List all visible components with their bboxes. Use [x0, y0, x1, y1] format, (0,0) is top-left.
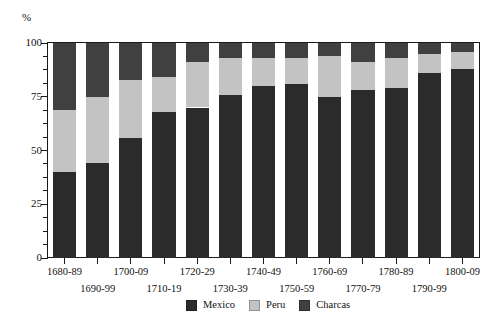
bar-segment-mexico — [53, 172, 76, 258]
bar-segment-peru — [418, 54, 441, 73]
legend-label: Mexico — [203, 299, 235, 311]
bar-segment-mexico — [385, 88, 408, 258]
x-tick-label: 1790-99 — [412, 283, 447, 294]
bar-column[interactable] — [351, 43, 374, 258]
y-tick-label: 25 — [31, 198, 42, 209]
bar-segment-charcas — [252, 43, 275, 58]
x-tick-label: 1800-09 — [445, 266, 480, 277]
x-tick-label: 1750-59 — [279, 283, 314, 294]
bar-segment-peru — [351, 62, 374, 90]
bar-segment-peru — [451, 52, 474, 69]
x-tick-label: 1680-89 — [47, 266, 82, 277]
bar-segment-charcas — [219, 43, 242, 58]
x-tick-label: 1760-69 — [312, 266, 347, 277]
bar-column[interactable] — [385, 43, 408, 258]
bar-segment-peru — [186, 62, 209, 107]
bar-segment-mexico — [119, 138, 142, 258]
bar-segment-peru — [119, 80, 142, 138]
legend-label: Peru — [266, 299, 285, 311]
legend-label: Charcas — [316, 299, 350, 311]
bar-segment-mexico — [318, 97, 341, 258]
x-tick-label: 1720-29 — [180, 266, 215, 277]
bar-segment-charcas — [119, 43, 142, 80]
bar-segment-mexico — [152, 112, 175, 258]
bar-column[interactable] — [252, 43, 275, 258]
legend-item[interactable]: Mexico — [186, 299, 235, 311]
bar-segment-peru — [318, 56, 341, 97]
bar-column[interactable] — [119, 43, 142, 258]
bar-segment-charcas — [318, 43, 341, 56]
x-tick — [230, 258, 231, 264]
bar-segment-charcas — [152, 43, 175, 77]
x-tick-label: 1780-89 — [379, 266, 414, 277]
bar-column[interactable] — [285, 43, 308, 258]
bar-segment-charcas — [451, 43, 474, 52]
bar-segment-charcas — [385, 43, 408, 58]
x-tick — [462, 258, 463, 264]
bar-segment-peru — [385, 58, 408, 88]
y-tick-label: 75 — [31, 91, 42, 102]
y-tick-label: 0 — [37, 252, 43, 263]
x-tick — [130, 258, 131, 264]
x-tick — [97, 258, 98, 264]
bar-segment-peru — [252, 58, 275, 86]
x-tick-label: 1770-79 — [345, 283, 380, 294]
bar-segment-mexico — [451, 69, 474, 258]
bar-column[interactable] — [219, 43, 242, 258]
x-tick-label: 1740-49 — [246, 266, 281, 277]
x-tick — [296, 258, 297, 264]
x-tick-label: 1710-19 — [147, 283, 182, 294]
x-tick — [197, 258, 198, 264]
bar-segment-mexico — [285, 84, 308, 258]
bar-column[interactable] — [53, 43, 76, 258]
x-tick — [263, 258, 264, 264]
plot-area — [48, 43, 479, 258]
bar-segment-charcas — [53, 43, 76, 110]
legend-item[interactable]: Charcas — [299, 299, 350, 311]
x-tick — [396, 258, 397, 264]
legend-item[interactable]: Peru — [249, 299, 285, 311]
y-tick-label: 50 — [31, 145, 42, 156]
bar-segment-peru — [86, 97, 109, 164]
x-tick-label: 1700-09 — [113, 266, 148, 277]
bar-segment-charcas — [418, 43, 441, 54]
x-tick — [329, 258, 330, 264]
chart-legend: MexicoPeruCharcas — [186, 299, 364, 311]
bar-segment-mexico — [418, 73, 441, 258]
bar-segment-mexico — [86, 163, 109, 258]
bar-segment-mexico — [252, 86, 275, 258]
bar-column[interactable] — [86, 43, 109, 258]
x-tick — [164, 258, 165, 264]
legend-swatch-charcas — [299, 300, 310, 311]
legend-swatch-peru — [249, 300, 260, 311]
bar-segment-charcas — [351, 43, 374, 62]
bar-column[interactable] — [152, 43, 175, 258]
bar-segment-mexico — [351, 90, 374, 258]
bar-segment-charcas — [285, 43, 308, 58]
bar-segment-mexico — [219, 95, 242, 258]
bar-segment-peru — [219, 58, 242, 95]
x-tick — [429, 258, 430, 264]
bar-segment-peru — [53, 110, 76, 172]
y-tick-label: 100 — [26, 37, 43, 48]
bar-segment-charcas — [86, 43, 109, 97]
x-tick — [64, 258, 65, 264]
y-axis-unit-label: % — [22, 11, 31, 23]
chart-figure: % 0255075100 1680-891690-991700-091710-1… — [0, 0, 498, 330]
bar-column[interactable] — [418, 43, 441, 258]
x-tick-label: 1730-39 — [213, 283, 248, 294]
legend-swatch-mexico — [186, 300, 197, 311]
bar-column[interactable] — [451, 43, 474, 258]
x-tick-label: 1690-99 — [80, 283, 115, 294]
bar-column[interactable] — [186, 43, 209, 258]
bar-segment-mexico — [186, 108, 209, 259]
bar-segment-peru — [285, 58, 308, 84]
x-tick — [362, 258, 363, 264]
bar-column[interactable] — [318, 43, 341, 258]
bar-segment-peru — [152, 77, 175, 111]
bar-segment-charcas — [186, 43, 209, 62]
